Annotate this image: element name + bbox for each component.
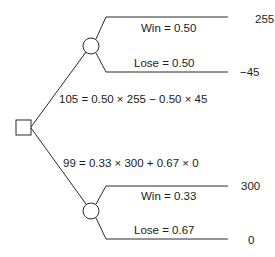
- payoff-lose-1: −45: [240, 67, 260, 79]
- chance-node-2: [83, 203, 99, 219]
- probability-label-win-1: Win = 0.50: [141, 23, 196, 35]
- decision-node-square: [16, 120, 31, 135]
- probability-label-lose-1: Lose = 0.50: [134, 58, 194, 70]
- payoff-lose-2: 0: [248, 235, 254, 247]
- expected-value-option-1: 105 = 0.50 × 255 − 0.50 × 45: [59, 94, 207, 106]
- branch-option-1: [31, 52, 86, 127]
- probability-label-win-2: Win = 0.33: [141, 191, 196, 203]
- payoff-win-1: 255: [255, 14, 274, 26]
- decision-tree-diagram: [0, 0, 275, 257]
- chance-node-1: [83, 38, 99, 54]
- probability-label-lose-2: Lose = 0.67: [134, 225, 194, 237]
- expected-value-option-2: 99 = 0.33 × 300 + 0.67 × 0: [63, 158, 199, 170]
- payoff-win-2: 300: [241, 181, 260, 193]
